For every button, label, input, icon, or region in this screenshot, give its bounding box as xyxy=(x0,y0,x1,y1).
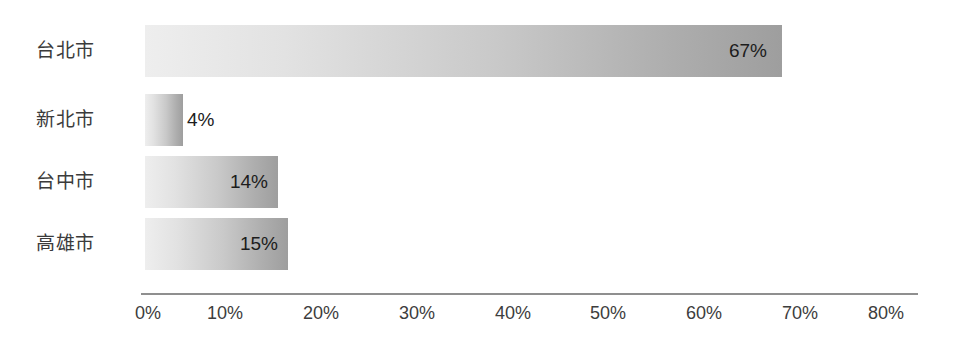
x-tick-label-6: 60% xyxy=(664,303,744,324)
category-label-2: 台中市 xyxy=(36,153,136,211)
x-axis-tick-labels: 0% 10% 20% 30% 40% 50% 60% 70% 80% xyxy=(0,303,975,333)
category-label-0: 台北市 xyxy=(36,22,136,80)
plot-area: 台北市 67% 新北市 4% 台中市 14% 高雄市 xyxy=(0,0,975,354)
category-label-3: 高雄市 xyxy=(36,215,136,273)
category-label-1: 新北市 xyxy=(36,91,136,149)
bar-track-3: 15% xyxy=(145,215,918,273)
bar-value-label-3: 15% xyxy=(165,218,278,270)
x-tick-label-3: 30% xyxy=(377,303,457,324)
bar-row: 台北市 67% xyxy=(0,22,975,80)
x-tick-label-1: 10% xyxy=(185,303,265,324)
bar-chart: 台北市 67% 新北市 4% 台中市 14% 高雄市 xyxy=(0,0,975,354)
x-tick-label-5: 50% xyxy=(568,303,648,324)
bar-row: 新北市 4% xyxy=(0,91,975,149)
bar-value-label-2: 14% xyxy=(158,156,268,208)
bar-1[interactable] xyxy=(145,94,183,146)
x-tick-label-8: 80% xyxy=(846,303,926,324)
x-tick-label-7: 70% xyxy=(760,303,840,324)
bar-value-label-1: 4% xyxy=(187,94,287,146)
bar-track-1: 4% xyxy=(145,91,918,149)
bar-row: 高雄市 15% xyxy=(0,215,975,273)
bar-row: 台中市 14% xyxy=(0,153,975,211)
x-tick-label-0: 0% xyxy=(108,303,188,324)
bar-track-0: 67% xyxy=(145,22,918,80)
bar-value-label-0: 67% xyxy=(642,25,767,77)
x-axis-line xyxy=(141,293,918,295)
x-tick-label-4: 40% xyxy=(473,303,553,324)
bar-track-2: 14% xyxy=(145,153,918,211)
x-tick-label-2: 20% xyxy=(281,303,361,324)
